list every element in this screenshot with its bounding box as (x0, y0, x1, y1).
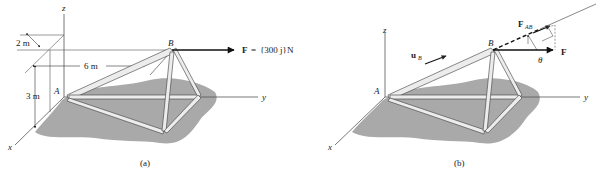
z-axis-label: z (61, 3, 66, 13)
ground-plane (352, 78, 540, 143)
dim-line (25, 35, 64, 73)
projection-FAB-subscript: AB (524, 24, 533, 30)
x-axis-label: x (327, 142, 332, 152)
member-AB-line-of-action-dashed (493, 29, 540, 50)
point-B-label: B (168, 38, 174, 48)
ground-plane (35, 78, 217, 143)
point-B-label: B (488, 38, 494, 48)
x-axis-label: x (7, 142, 12, 152)
point-A-label: A (53, 86, 60, 96)
dim-arrow-2m (28, 35, 40, 47)
projection-arrow-FAB (533, 26, 550, 33)
figure-a: z y x A B 2 m 6 m 3 m F = {300 j}N (a) (7, 3, 294, 168)
caption-b: (b) (454, 158, 465, 168)
force-equals: = (251, 45, 256, 55)
caption-a: (a) (140, 158, 150, 168)
unit-vector-uB-subscript: B (418, 55, 422, 61)
figure-b: z y x A B u B F AB F θ (b) (327, 4, 596, 168)
angle-theta-label: θ (538, 55, 543, 65)
force-F-value: {300 j}N (260, 45, 294, 55)
projection-FAB-symbol: F (518, 19, 524, 29)
dimension-6m: 6 m (84, 61, 98, 71)
y-axis-label: y (583, 92, 588, 102)
force-F-symbol: F (561, 47, 567, 57)
z-axis-label: z (382, 25, 387, 35)
dimension-3m: 3 m (26, 91, 40, 101)
y-axis-label: y (261, 92, 266, 102)
truss-figure: z y x A B 2 m 6 m 3 m F = {300 j}N (a) (0, 0, 598, 177)
angle-arc (528, 35, 537, 50)
point-A-label: A (373, 86, 380, 96)
dimension-2m: 2 m (16, 38, 30, 48)
unit-vector-arrow-uB (425, 56, 446, 64)
member-AB-line-of-action (540, 4, 596, 29)
force-F-symbol: F (242, 45, 248, 55)
unit-vector-uB-symbol: u (411, 50, 416, 60)
